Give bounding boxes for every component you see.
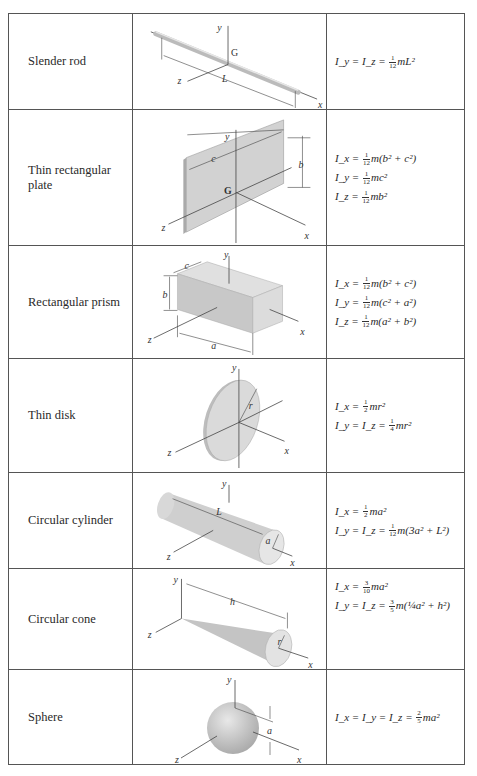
axis-label-z: z: [177, 75, 182, 86]
radius-label-r: r: [249, 400, 253, 411]
axis-label-z: z: [147, 334, 152, 345]
moments-of-inertia-table: Slender rod y G z L x I_y = I_z = 112mL²: [8, 13, 465, 765]
equations: I_x = 12mr² I_y = I_z = 14mr²: [327, 359, 472, 472]
equation: I_y = 112m(c² + a²): [335, 293, 472, 312]
dimension-label-L: L: [215, 506, 222, 517]
equation: I_y = 112mc²: [335, 168, 472, 187]
shape-name: Sphere: [9, 670, 133, 764]
shape-name: Circular cylinder: [9, 473, 133, 568]
equations: I_x = 12ma² I_y = I_z = 112m(3a² + L²): [327, 473, 472, 568]
dimension-label-a: a: [211, 340, 216, 351]
equation: I_x = 12ma²: [335, 502, 472, 521]
equation: I_y = I_z = 112m(3a² + L²): [335, 521, 472, 540]
equation: I_z = 112m(a² + b²): [335, 312, 472, 331]
radius-label-r: r: [278, 636, 282, 647]
equation: I_y = I_z = 35m(¼a² + h²): [335, 596, 472, 615]
circular-cone-diagram: y h r z x: [133, 569, 327, 669]
axis-label-y: y: [226, 674, 232, 685]
dimension-label-b: b: [163, 289, 168, 300]
axis-label-x: x: [317, 99, 323, 109]
dimension-label-h: h: [230, 596, 235, 607]
shape-name: Thin disk: [9, 359, 133, 472]
shape-name: Rectangular prism: [9, 246, 133, 358]
table-row-circular-cone: Circular cone y h r z x I_x = 310ma² I_y…: [9, 569, 464, 670]
axis-label-y: y: [221, 478, 227, 489]
axis-label-x: x: [284, 445, 290, 456]
dimension-label-L: L: [221, 73, 228, 84]
equation: I_z = 112mb²: [335, 187, 472, 206]
equation: I_y = I_z = 112mL²: [335, 52, 472, 71]
rectangular-prism-diagram: y c b a z x: [133, 246, 327, 358]
axis-label-x: x: [307, 659, 313, 669]
table-row-slender-rod: Slender rod y G z L x I_y = I_z = 112mL²: [9, 14, 464, 110]
radius-label-a: a: [266, 535, 271, 546]
sphere-diagram: y a z x: [133, 670, 327, 764]
axis-label-y: y: [173, 574, 179, 585]
equations: I_y = I_z = 112mL²: [327, 14, 472, 109]
axis-label-z: z: [166, 551, 171, 562]
table-row-thin-disk: Thin disk y r z x I_x = 12mr² I_y = I_z …: [9, 359, 464, 473]
shape-name: Circular cone: [9, 569, 133, 669]
shape-name: Slender rod: [9, 14, 133, 109]
thin-plate-diagram: y c b G z x: [133, 110, 327, 245]
axis-label-x: x: [303, 230, 309, 241]
axis-label-x: x: [289, 557, 295, 568]
equations: I_x = 112m(b² + c²) I_y = 112mc² I_z = 1…: [327, 110, 472, 245]
equation: I_x = I_y = I_z = 25ma²: [335, 708, 472, 727]
table-row-thin-plate: Thin rectangular plate y c b G z x: [9, 110, 464, 246]
dimension-label-c: c: [184, 260, 189, 271]
axis-label-y: y: [231, 362, 237, 373]
axis-label-z: z: [174, 754, 179, 764]
axis-label-y: y: [216, 22, 222, 33]
equations: I_x = I_y = I_z = 25ma²: [327, 670, 472, 764]
thin-disk-diagram: y r z x: [133, 359, 327, 472]
axis-label-z: z: [161, 222, 166, 233]
shape-name: Thin rectangular plate: [9, 110, 133, 245]
axis-label-x: x: [296, 754, 302, 764]
equation: I_x = 12mr²: [335, 397, 472, 416]
equations: I_x = 310ma² I_y = I_z = 35m(¼a² + h²): [327, 569, 472, 677]
centroid-label: G: [231, 47, 238, 58]
axis-label-x: x: [299, 326, 305, 337]
table-row-sphere: Sphere y a z x: [9, 670, 464, 764]
equation: I_x = 310ma²: [335, 577, 472, 596]
equations: I_x = 112m(b² + c²) I_y = 112m(c² + a²) …: [327, 246, 472, 358]
table-row-rectangular-prism: Rectangular prism y c b a z: [9, 246, 464, 359]
axis-label-z: z: [167, 447, 172, 458]
circular-cylinder-diagram: y L a z x: [133, 473, 327, 568]
equation: I_y = I_z = 14mr²: [335, 416, 472, 435]
centroid-label: G: [224, 185, 232, 196]
table-row-circular-cylinder: Circular cylinder y L a z x I_x = 12ma² …: [9, 473, 464, 569]
axis-label-y: y: [224, 131, 230, 142]
equation: I_x = 112m(b² + c²): [335, 149, 472, 168]
slender-rod-diagram: y G z L x: [133, 14, 327, 109]
dimension-label-b: b: [298, 159, 303, 170]
equation: I_x = 112m(b² + c²): [335, 274, 472, 293]
axis-label-y: y: [223, 249, 229, 260]
axis-label-z: z: [147, 629, 152, 640]
radius-label-a: a: [267, 725, 272, 736]
dimension-label-c: c: [211, 153, 216, 164]
